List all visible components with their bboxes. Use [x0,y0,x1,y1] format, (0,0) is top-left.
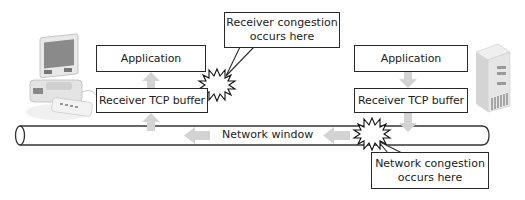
arrow-left-icon [184,127,210,144]
network-callout-line1: Network congestion [375,157,485,171]
network-congestion-callout: Network congestion occurs here [371,152,489,189]
desktop-computer-icon [26,34,96,120]
arrow-down-icon [399,113,417,132]
left-application-label: Application [121,52,181,65]
right-application-label: Application [381,52,441,65]
arrow-left-icon [323,127,350,144]
left-tcp-buffer-box: Receiver TCP buffer [96,88,208,113]
arrow-down-icon [399,72,417,88]
server-tower-icon [476,44,510,112]
receiver-callout-line2: occurs here [250,30,314,44]
left-application-box: Application [96,45,206,72]
right-tcp-buffer-label: Receiver TCP buffer [358,94,464,107]
receiver-callout-line1: Receiver congestion [226,16,337,30]
right-tcp-buffer-box: Receiver TCP buffer [354,88,468,113]
network-window-label: Network window [222,128,313,141]
receiver-callout-tail [226,47,254,76]
arrow-up-icon [142,72,160,88]
receiver-congestion-callout: Receiver congestion occurs here [224,12,340,48]
network-callout-line2: occurs here [398,171,462,185]
tcp-congestion-diagram: Application Receiver TCP buffer Applicat… [0,0,525,200]
right-application-box: Application [354,45,468,72]
arrow-up-icon [142,113,160,131]
left-tcp-buffer-label: Receiver TCP buffer [99,94,205,107]
